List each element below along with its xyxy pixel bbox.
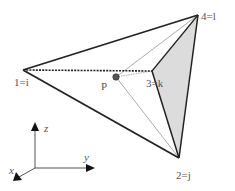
coordinate-axes: z y x [8, 122, 95, 181]
vertex-label-2: 2=j [176, 169, 191, 181]
vertex-label-3: 3=k [146, 77, 164, 89]
z-axis-label: z [43, 122, 49, 134]
tetrahedron-diagram: 1=i 2=j 3=k 4=l P z y x [0, 0, 235, 191]
x-axis-label: x [8, 164, 14, 176]
hidden-edge-1-3 [23, 70, 152, 71]
vertex-label-1: 1=i [14, 76, 29, 88]
y-axis-arrow-icon [86, 164, 95, 172]
point-label-p: P [101, 80, 107, 92]
z-axis-arrow-icon [31, 122, 39, 131]
point-p-marker [113, 74, 119, 80]
x-axis-line [19, 168, 35, 177]
y-axis-label: y [83, 151, 89, 163]
vertex-label-4: 4=l [201, 10, 216, 22]
